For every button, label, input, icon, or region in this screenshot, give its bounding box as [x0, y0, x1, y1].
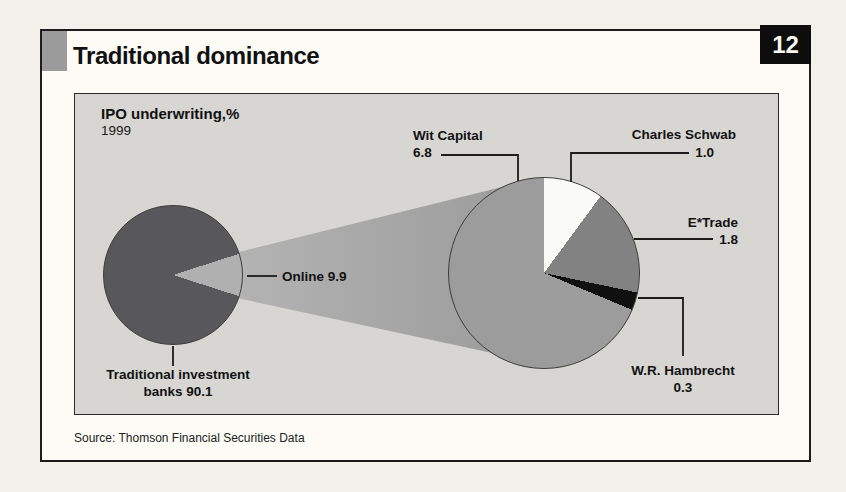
figure-card: Traditional dominance 12 IPO underwritin…	[40, 29, 811, 462]
label-charles-schwab-value: 1.0	[602, 144, 714, 161]
label-wit-capital-name: Wit Capital	[413, 127, 483, 144]
label-etrade-name: E*Trade	[618, 214, 738, 231]
figure-number-badge: 12	[760, 25, 811, 64]
label-traditional-banks: Traditional investment banks 90.1	[98, 366, 258, 400]
figure-title: Traditional dominance	[73, 42, 319, 70]
chart-heading: IPO underwriting,%	[101, 105, 239, 122]
label-hambrecht-value: 0.3	[613, 379, 753, 396]
chart-panel: IPO underwriting,% 1999 Wit Capital 6.8 …	[74, 93, 779, 415]
source-note: Source: Thomson Financial Securities Dat…	[74, 431, 305, 445]
figure-number: 12	[772, 31, 799, 59]
label-traditional-line1: Traditional investment	[98, 366, 258, 383]
label-etrade: E*Trade 1.8	[618, 214, 738, 248]
leader-hambrecht	[638, 298, 683, 356]
label-hambrecht: W.R. Hambrecht 0.3	[613, 362, 753, 396]
label-traditional-line2: banks 90.1	[98, 383, 258, 400]
label-wit-capital: Wit Capital 6.8	[413, 127, 483, 161]
label-online: Online 9.9	[282, 268, 347, 285]
label-wit-capital-value: 6.8	[413, 144, 483, 161]
chart-year: 1999	[101, 123, 131, 138]
corner-tab-decoration	[42, 31, 67, 71]
label-charles-schwab-name: Charles Schwab	[602, 126, 736, 143]
label-etrade-value: 1.8	[618, 231, 738, 248]
label-hambrecht-name: W.R. Hambrecht	[613, 362, 753, 379]
